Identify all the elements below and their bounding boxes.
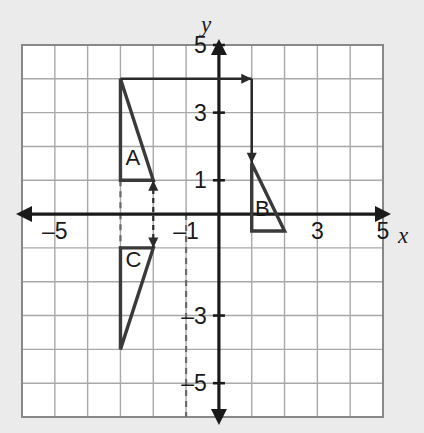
y-axis-label: y [199, 12, 212, 37]
figure-container: –5–135531–3–5 ABC x y [0, 0, 424, 433]
triangle-label-C: C [125, 247, 141, 272]
x-tick-label: 3 [311, 218, 324, 244]
y-tick-label: 3 [194, 100, 207, 126]
triangle-label-B: B [255, 196, 270, 221]
y-tick-label: –3 [181, 303, 207, 329]
x-tick-label: –1 [173, 218, 199, 244]
triangle-label-A: A [125, 145, 140, 170]
x-tick-label: 5 [377, 218, 390, 244]
coordinate-plane-figure: –5–135531–3–5 ABC x y [0, 0, 424, 433]
x-tick-label: –5 [42, 218, 68, 244]
y-tick-label: –5 [181, 370, 207, 396]
y-tick-label: 1 [194, 167, 207, 193]
x-axis-label: x [397, 223, 409, 248]
